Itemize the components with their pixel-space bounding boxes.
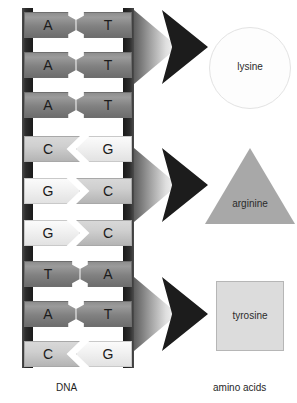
base-pair-row: G C: [24, 178, 132, 204]
amino-acid-arginine: arginine: [205, 148, 295, 226]
base-left-A: A: [24, 52, 80, 78]
base-right-T: T: [76, 301, 132, 327]
base-right-T: T: [76, 52, 132, 78]
dna-ladder: A T A T A T C: [22, 8, 134, 368]
caption-amino-acids: amino acids: [213, 382, 266, 393]
base-pair-row: T A: [24, 261, 132, 287]
base-left-A: A: [24, 301, 80, 327]
base-pair-row: A T: [24, 12, 132, 38]
dna-amino-acid-diagram: A T A T A T C: [0, 0, 297, 403]
amino-acid-tyrosine: tyrosine: [216, 281, 284, 351]
base-right-G: G: [76, 136, 132, 162]
base-right-T: T: [76, 92, 132, 118]
amino-acid-lysine: lysine: [209, 27, 291, 109]
base-right-C: C: [76, 220, 132, 246]
arrow-icon-2: [134, 148, 208, 222]
amino-acid-label: arginine: [205, 198, 295, 209]
base-right-A: A: [76, 261, 132, 287]
base-left-C: C: [24, 341, 80, 367]
arrow-icon-1: [134, 10, 208, 84]
base-pair-row: A T: [24, 52, 132, 78]
base-right-G: G: [76, 341, 132, 367]
base-right-T: T: [76, 12, 132, 38]
base-left-C: C: [24, 136, 80, 162]
base-pair-row: A T: [24, 92, 132, 118]
amino-acid-label: tyrosine: [216, 310, 284, 321]
triangle-shape: [205, 148, 295, 224]
base-pair-row: C G: [24, 136, 132, 162]
base-pair-row: A T: [24, 301, 132, 327]
base-pair-row: G C: [24, 220, 132, 246]
caption-dna: DNA: [56, 382, 77, 393]
arrow-icon-3: [134, 277, 208, 351]
base-left-G: G: [24, 220, 80, 246]
base-left-A: A: [24, 92, 80, 118]
amino-acid-label: lysine: [209, 61, 291, 72]
base-left-T: T: [24, 261, 80, 287]
base-left-G: G: [24, 178, 80, 204]
base-right-C: C: [76, 178, 132, 204]
base-left-A: A: [24, 12, 80, 38]
base-pair-row: C G: [24, 341, 132, 367]
